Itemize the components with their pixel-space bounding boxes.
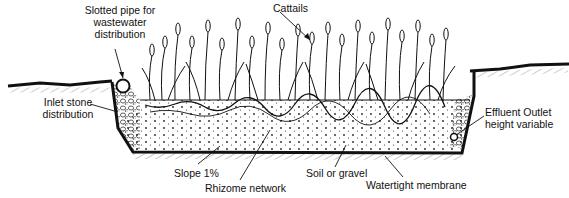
label-effluent-line1: Effluent Outlet	[485, 106, 553, 118]
label-slotted-pipe-line2: wastewater	[80, 16, 160, 28]
label-watertight-membrane: Watertight membrane	[366, 179, 467, 191]
label-slotted-pipe: Slotted pipe for wastewater distribution	[80, 4, 160, 40]
label-slotted-pipe-line3: distribution	[80, 28, 160, 40]
label-inlet-stone-line2: distribution	[38, 108, 98, 120]
wetland-diagram: Cattails Slotted pipe for wastewater dis…	[0, 0, 569, 198]
label-slope: Slope 1%	[174, 167, 219, 179]
label-effluent-line2: height variable	[485, 118, 553, 130]
label-inlet-stone: Inlet stone distribution	[38, 96, 98, 120]
label-rhizome-network: Rhizome network	[205, 182, 286, 194]
label-inlet-stone-line1: Inlet stone	[38, 96, 98, 108]
label-soil-gravel: Soil or gravel	[306, 167, 367, 179]
label-effluent-outlet: Effluent Outlet height variable	[485, 106, 553, 130]
label-slotted-pipe-line1: Slotted pipe for	[80, 4, 160, 16]
label-cattails: Cattails	[273, 2, 308, 14]
